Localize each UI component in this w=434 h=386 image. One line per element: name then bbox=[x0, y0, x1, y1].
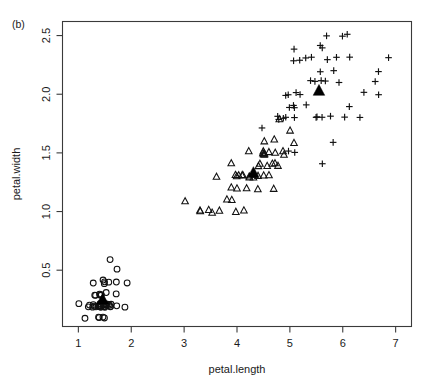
data-point-circle bbox=[122, 304, 128, 310]
x-tick-label: 4 bbox=[234, 337, 240, 349]
x-tick-label: 3 bbox=[181, 337, 187, 349]
data-point-triangle bbox=[228, 184, 235, 190]
data-point-circle bbox=[124, 280, 130, 286]
data-point-circle bbox=[103, 290, 109, 296]
data-point-circle bbox=[76, 301, 82, 307]
data-point-triangle bbox=[255, 162, 262, 168]
data-point-triangle bbox=[287, 127, 294, 133]
data-point-circle bbox=[113, 279, 119, 285]
data-point-triangle bbox=[243, 185, 250, 191]
x-tick-label: 6 bbox=[340, 337, 346, 349]
y-tick-label: 1.0 bbox=[41, 204, 53, 219]
data-point-circle bbox=[90, 280, 96, 286]
data-point-triangle bbox=[182, 198, 189, 204]
y-axis-title: petal.width bbox=[10, 148, 22, 201]
data-point-triangle bbox=[241, 207, 248, 213]
series-group-2 bbox=[182, 116, 298, 216]
y-tick-label: 0.5 bbox=[41, 263, 53, 278]
data-point-triangle bbox=[266, 172, 273, 178]
data-point-circle bbox=[100, 277, 106, 283]
data-point-triangle bbox=[233, 208, 240, 214]
data-point-circle bbox=[82, 315, 88, 321]
series-group-3 bbox=[259, 31, 392, 167]
data-point-triangle bbox=[272, 149, 279, 155]
data-point-triangle bbox=[197, 207, 204, 213]
data-point-triangle bbox=[224, 196, 231, 202]
series-group-1 bbox=[76, 257, 130, 321]
data-point-circle bbox=[107, 257, 113, 263]
plot-canvas: (b) 1234567 0.51.01.52.02.5 petal.length… bbox=[0, 0, 434, 386]
data-point-triangle bbox=[261, 138, 268, 144]
data-point-circle bbox=[114, 303, 120, 309]
data-point-triangle bbox=[205, 206, 212, 212]
data-point-triangle bbox=[234, 185, 241, 191]
data-point-triangle bbox=[228, 160, 235, 166]
x-tick-label: 5 bbox=[287, 337, 293, 349]
data-point-triangle bbox=[213, 173, 220, 179]
data-point-triangle bbox=[270, 185, 277, 191]
panel-label: (b) bbox=[12, 18, 25, 30]
y-axis-ticks: 0.51.01.52.02.5 bbox=[41, 28, 63, 278]
y-tick-label: 1.5 bbox=[41, 145, 53, 160]
scatter-plot-figure: (b) 1234567 0.51.01.52.02.5 petal.length… bbox=[0, 0, 434, 386]
data-point-triangle bbox=[255, 186, 262, 192]
x-axis-title: petal.length bbox=[209, 363, 266, 375]
data-point-circle bbox=[113, 291, 119, 297]
data-point-triangle bbox=[291, 139, 298, 145]
centroid-group-3 bbox=[313, 85, 325, 96]
x-axis-ticks: 1234567 bbox=[75, 327, 398, 349]
y-tick-label: 2.5 bbox=[41, 28, 53, 43]
centroid-markers-layer bbox=[97, 85, 325, 305]
data-point-triangle bbox=[271, 136, 278, 142]
y-tick-label: 2.0 bbox=[41, 87, 53, 102]
x-tick-label: 7 bbox=[393, 337, 399, 349]
data-point-circle bbox=[114, 266, 120, 272]
x-tick-label: 2 bbox=[128, 337, 134, 349]
data-points-layer bbox=[76, 31, 392, 321]
data-point-triangle bbox=[245, 148, 252, 154]
data-point-triangle bbox=[216, 207, 223, 213]
x-tick-label: 1 bbox=[75, 337, 81, 349]
